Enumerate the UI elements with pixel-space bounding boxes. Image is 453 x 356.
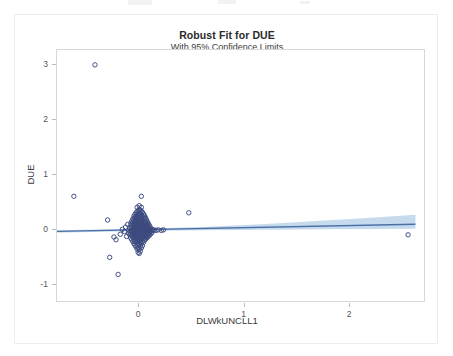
data-point: [116, 272, 120, 276]
scan-artifact-top-mid: [218, 0, 236, 4]
x-tick-mark: [138, 303, 139, 307]
scan-artifact-top-left: [128, 0, 152, 5]
y-tick-label: 2: [24, 114, 48, 124]
x-axis-title: DLWkUNCLL1: [15, 315, 439, 326]
y-tick-mark: [52, 229, 56, 230]
x-tick-mark: [244, 303, 245, 307]
data-point: [406, 233, 410, 237]
scan-artifact-top-right: [300, 1, 310, 4]
scatter-plot-svg: [57, 50, 425, 302]
y-tick-mark: [52, 174, 56, 175]
y-tick-mark: [52, 284, 56, 285]
y-tick-label: 1: [24, 169, 48, 179]
data-point: [93, 63, 97, 67]
data-points: [72, 63, 411, 277]
chart-card: Robust Fit for DUE With 95% Confidence L…: [14, 14, 438, 344]
y-tick-mark: [52, 64, 56, 65]
data-point: [105, 218, 109, 222]
chart-page: Robust Fit for DUE With 95% Confidence L…: [0, 0, 453, 356]
y-tick-label: 3: [24, 59, 48, 69]
y-tick-label: -1: [24, 279, 48, 289]
data-point: [118, 232, 122, 236]
y-tick-label: 0: [24, 224, 48, 234]
x-tick-mark: [349, 303, 350, 307]
data-point: [108, 255, 112, 259]
chart-title: Robust Fit for DUE: [15, 29, 439, 41]
data-point: [72, 194, 76, 198]
plot-area: [56, 49, 425, 302]
data-point: [187, 211, 191, 215]
y-tick-mark: [52, 119, 56, 120]
data-point: [139, 194, 143, 198]
